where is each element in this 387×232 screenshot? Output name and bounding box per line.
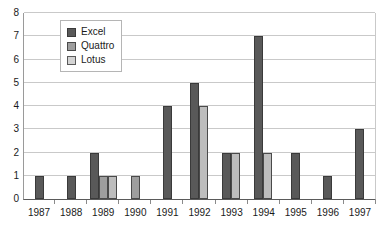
- bar-group: [247, 13, 279, 199]
- y-tick-label: 4: [13, 101, 19, 111]
- bar: [355, 129, 364, 199]
- bar-group: [343, 13, 375, 199]
- bar-group: [24, 13, 56, 199]
- x-tick-mark: [119, 200, 151, 205]
- y-tick-label: 3: [13, 124, 19, 134]
- bar-group: [215, 13, 247, 199]
- bar-chart: 012345678 198719881989199019911992199319…: [0, 0, 387, 232]
- x-tick-mark: [216, 200, 248, 205]
- legend-item-excel: Excel: [67, 25, 114, 39]
- x-tick-mark: [23, 200, 55, 205]
- x-tick-label: 1990: [119, 206, 151, 226]
- y-tick-label: 8: [13, 8, 19, 18]
- bar-group: [311, 13, 343, 199]
- bar: [35, 176, 44, 199]
- bar-group: [184, 13, 216, 199]
- bar: [323, 176, 332, 199]
- x-tick-label: 1988: [55, 206, 87, 226]
- bar: [90, 153, 99, 200]
- x-tick-label: 1994: [248, 206, 280, 226]
- x-tick-mark: [87, 200, 119, 205]
- y-tick-label: 5: [13, 78, 19, 88]
- x-tick-mark: [280, 200, 312, 205]
- bar: [291, 153, 300, 200]
- x-tick-mark: [55, 200, 87, 205]
- legend-item-lotus: Lotus: [67, 53, 114, 67]
- x-axis: 1987198819891990199119921993199419951996…: [23, 206, 376, 226]
- bar: [199, 106, 208, 199]
- y-tick-label: 1: [13, 171, 19, 181]
- bar: [222, 153, 231, 200]
- bar-group: [120, 13, 152, 199]
- x-tick-mark: [344, 200, 376, 205]
- x-tick-mark: [151, 200, 183, 205]
- y-tick-label: 6: [13, 55, 19, 65]
- x-tick-mark: [183, 200, 215, 205]
- bar: [254, 36, 263, 199]
- x-tick-label: 1991: [151, 206, 183, 226]
- y-tick-label: 2: [13, 148, 19, 158]
- x-tick-label: 1993: [216, 206, 248, 226]
- x-tick-label: 1996: [312, 206, 344, 226]
- bar: [263, 153, 272, 200]
- x-tick-label: 1995: [280, 206, 312, 226]
- x-tick-label: 1987: [23, 206, 55, 226]
- bar-group: [152, 13, 184, 199]
- legend-swatch-lotus: [67, 56, 76, 65]
- bar: [131, 176, 140, 199]
- bar: [163, 106, 172, 199]
- x-tick-label: 1989: [87, 206, 119, 226]
- x-tick-label: 1997: [344, 206, 376, 226]
- x-tick-mark: [312, 200, 344, 205]
- bar: [67, 176, 76, 199]
- x-tick-mark: [248, 200, 280, 205]
- legend-label-lotus: Lotus: [81, 54, 105, 66]
- x-tick-label: 1992: [183, 206, 215, 226]
- bar: [190, 83, 199, 199]
- y-axis: 012345678: [0, 0, 22, 232]
- y-tick-label: 7: [13, 31, 19, 41]
- bar: [99, 176, 108, 199]
- legend-swatch-excel: [67, 28, 76, 37]
- legend-label-excel: Excel: [81, 26, 105, 38]
- bar: [231, 153, 240, 200]
- legend-label-quattro: Quattro: [81, 40, 114, 52]
- chart-legend: Excel Quattro Lotus: [60, 20, 122, 72]
- legend-item-quattro: Quattro: [67, 39, 114, 53]
- bar-group: [279, 13, 311, 199]
- y-tick-label: 0: [13, 194, 19, 204]
- bar: [108, 176, 117, 199]
- x-axis-ticks: [23, 200, 376, 205]
- legend-swatch-quattro: [67, 42, 76, 51]
